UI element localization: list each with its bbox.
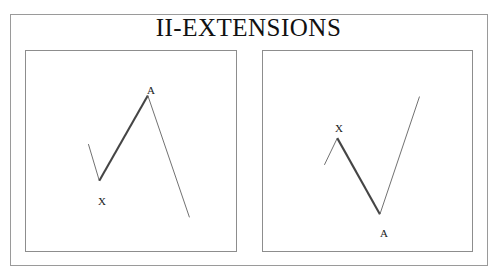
pivot-label-x-right: X [335,123,343,134]
pivot-label-x-left: X [98,196,106,207]
pivot-label-a-left: A [147,85,155,96]
chart-svg-left [26,51,236,251]
figure-root: II-EXTENSIONS X A X A [0,0,497,277]
chart-panel-right: X A [262,50,473,252]
chart-panel-left: X A [25,50,237,252]
chart-svg-right [263,51,472,251]
page-title: II-EXTENSIONS [0,14,497,42]
extension-leg-left [148,96,190,218]
approach-leg-left [88,144,99,181]
approach-leg-right [324,138,337,165]
extension-leg-right [380,97,420,215]
impulse-leg-left [99,96,148,181]
pivot-label-a-right: A [380,228,388,239]
impulse-leg-right [337,138,380,214]
